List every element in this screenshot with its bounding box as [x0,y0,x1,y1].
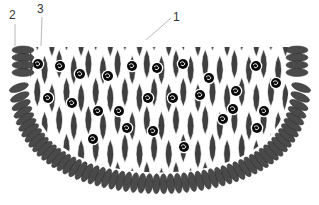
lens-element [311,195,318,205]
lens-element [311,139,318,169]
lens-element [70,111,77,141]
particle-icon [258,105,271,118]
lens-element [267,189,274,205]
lens-element [165,139,172,169]
rim-disc [286,61,308,69]
particle-icon [42,92,55,105]
lens-element [34,77,41,107]
rim-disc [12,69,34,77]
lens-element [12,167,19,197]
lens-element [19,139,26,169]
lens-element [304,167,311,197]
particle-icon [126,60,139,73]
lens-element [92,77,99,107]
particle-icon [74,68,87,81]
lens-element [275,167,282,197]
particle-icon [142,92,155,105]
particle-icon [203,72,216,85]
lens-element [78,27,85,57]
particle-icon [251,122,264,135]
particle-icon [147,125,160,138]
lens-element [187,111,194,141]
rim-disc [152,174,160,194]
particle-icon [167,92,180,105]
label-1: 1 [173,11,180,23]
particle-icon [250,60,263,73]
lens-element [267,21,274,51]
lens-element [194,139,201,169]
lens-element [107,27,114,57]
lens-element [121,21,128,51]
lens-element [282,195,289,205]
lens-element [224,195,231,205]
rim-disc [12,54,34,62]
rim-disc [286,69,308,77]
rim-disc [160,174,168,194]
lens-element [143,49,150,79]
lens-element [238,21,245,51]
lens-element [121,133,128,163]
particle-group [32,58,283,154]
lens-element [209,189,216,205]
particle-icon [54,60,67,73]
lens-element [63,21,70,51]
particle-icon [102,70,115,83]
lens-element [253,195,260,205]
lens-element [34,21,41,51]
lens-element [63,189,70,205]
particle-icon [230,85,243,98]
label-3: 3 [37,3,44,15]
leader-line-3 [41,17,42,46]
lens-element [231,49,238,79]
lens-element [136,139,143,169]
lens-element [92,189,99,205]
rim-disc [286,54,308,62]
lens-element [107,83,114,113]
lens-element [216,55,223,85]
lens-element [56,105,63,135]
lens-element [224,27,231,57]
lens-element [27,161,34,191]
lens-element [48,27,55,57]
lens-element [114,49,121,79]
lens-element [173,105,180,135]
bowl-diagram [0,0,319,205]
lens-element [297,189,304,205]
lens-element [41,167,48,197]
particle-icon [87,133,100,146]
particle-icon [178,141,191,154]
lens-element [180,21,187,51]
particle-icon [217,113,230,126]
lens-element [107,139,114,169]
lens-element [78,83,85,113]
lens-element [165,195,172,205]
lens-element [136,27,143,57]
particle-icon [270,77,283,90]
lens-element [180,77,187,107]
label-2: 2 [9,9,16,21]
rim-disc [12,61,34,69]
particle-icon [66,97,79,110]
lens-element [209,133,216,163]
particle-icon [194,89,207,102]
lens-element [158,111,165,141]
lens-element [194,195,201,205]
rim-disc [286,46,308,54]
lens-element [107,195,114,205]
lens-element [209,21,216,51]
particle-icon [113,105,126,118]
lens-element [187,55,194,85]
particle-icon [151,62,164,75]
lens-element [311,27,318,57]
lens-element [253,27,260,57]
lens-element [289,161,296,191]
lens-element [92,21,99,51]
lens-element [194,27,201,57]
lens-element [151,133,158,163]
leader-lines [15,17,171,46]
rim-disc [12,46,34,54]
particle-icon [227,103,240,116]
lens-element [165,27,172,57]
rim-disc [145,173,154,194]
lens-element [297,133,304,163]
